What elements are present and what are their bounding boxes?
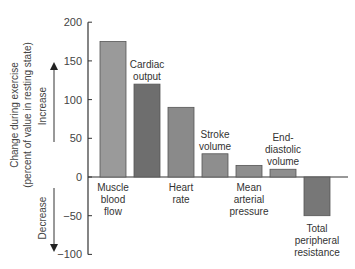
category-label: Heart [169, 182, 194, 193]
bar [270, 169, 296, 177]
category-label: resistance [294, 247, 340, 258]
decrease-label: Decrease [37, 196, 48, 239]
y-axis-label-line1: Change during exercise [9, 62, 20, 168]
bar [236, 165, 262, 177]
category-label: Stroke [201, 129, 230, 140]
category-label: peripheral [295, 235, 339, 246]
y-tick-label: 0 [76, 171, 82, 183]
y-tick-label: −100 [57, 248, 82, 260]
category-label: blood [101, 194, 125, 205]
category-label: Mean [236, 182, 261, 193]
category-label: output [133, 71, 161, 82]
category-label: rate [172, 194, 190, 205]
y-tick-label: 50 [70, 132, 82, 144]
bar [202, 154, 228, 177]
category-label: End- [272, 132, 293, 143]
y-tick-label: 100 [64, 94, 82, 106]
category-label: volume [199, 141, 232, 152]
bar [168, 107, 194, 177]
category-label: diastolic [265, 144, 301, 155]
bar [100, 42, 126, 177]
increase-label: Increase [37, 86, 48, 125]
category-label: Total [306, 223, 327, 234]
y-axis-label-line2: (percent of value in resting state) [22, 42, 33, 188]
arrow-up-icon [50, 62, 58, 70]
bar [304, 177, 330, 216]
y-tick-label: −50 [63, 210, 82, 222]
category-label: Cardiac [130, 59, 164, 70]
category-label: arterial [234, 194, 265, 205]
category-label: volume [267, 156, 300, 167]
category-label: pressure [230, 206, 269, 217]
bar [134, 84, 160, 177]
y-tick-label: 150 [64, 55, 82, 67]
y-tick-label: 200 [64, 16, 82, 28]
category-label: flow [104, 206, 123, 217]
bar-chart: 200150100500−50−100MusclebloodflowCardia… [0, 0, 355, 269]
category-label: Muscle [97, 182, 129, 193]
